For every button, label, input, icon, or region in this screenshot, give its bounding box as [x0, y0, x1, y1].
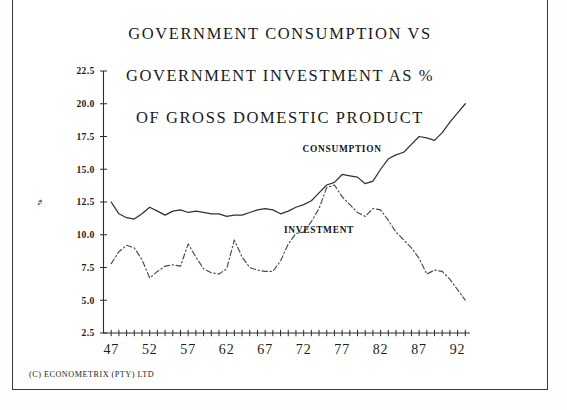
- x-axis-tick-label: 82: [373, 342, 389, 357]
- y-axis-tick-label: 15.0: [77, 164, 95, 175]
- y-axis-tick-label: 22.5: [77, 65, 95, 76]
- x-axis-tick-label: 62: [219, 342, 235, 357]
- y-axis-unit-label: %: [36, 199, 44, 206]
- series-label-investment: INVESTMENT: [284, 225, 354, 235]
- footer-credit: (C) ECONOMETRIX (PTY) LTD: [29, 370, 154, 379]
- y-axis-tick-label: 7.5: [82, 262, 95, 273]
- plot-area: 2.55.07.510.012.515.017.520.022.5%475257…: [0, 0, 567, 410]
- y-axis-tick-label: 10.0: [77, 229, 95, 240]
- x-axis-tick-label: 87: [411, 342, 427, 357]
- line-chart-svg: 2.55.07.510.012.515.017.520.022.5%475257…: [0, 0, 567, 410]
- x-axis-tick-label: 47: [103, 342, 119, 357]
- y-axis-tick-label: 20.0: [77, 98, 95, 109]
- series-line-consumption: [111, 104, 465, 219]
- y-axis-tick-label: 5.0: [82, 295, 95, 306]
- x-axis-tick-label: 57: [180, 342, 196, 357]
- series-label-consumption: CONSUMPTION: [303, 144, 382, 154]
- chart-screenshot: GOVERNMENT CONSUMPTION VS GOVERNMENT INV…: [0, 0, 567, 410]
- x-axis-tick-label: 92: [450, 342, 466, 357]
- x-axis-tick-label: 72: [296, 342, 312, 357]
- y-axis-tick-label: 12.5: [77, 196, 95, 207]
- x-axis-tick-label: 67: [257, 342, 273, 357]
- y-axis-tick-label: 2.5: [82, 327, 95, 338]
- y-axis-tick-label: 17.5: [77, 131, 95, 142]
- x-axis-tick-label: 77: [334, 342, 350, 357]
- series-line-investment: [111, 185, 465, 300]
- x-axis-tick-label: 52: [142, 342, 158, 357]
